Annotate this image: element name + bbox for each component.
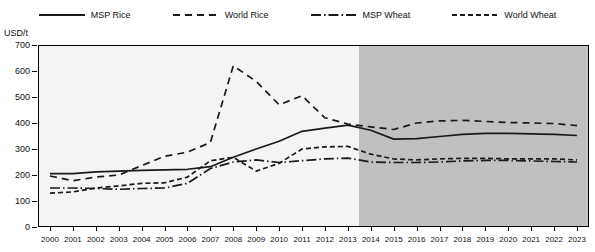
x-tick-label: 2017	[431, 235, 449, 244]
series-line-msp-rice	[50, 125, 577, 174]
x-tick-mark	[485, 227, 486, 231]
legend-swatch-dotted-dash-icon	[452, 10, 498, 20]
x-tick-mark	[577, 227, 578, 231]
y-tick-mark	[32, 227, 37, 228]
legend-swatch-solid-icon	[39, 10, 85, 20]
x-tick-label: 2006	[179, 235, 197, 244]
y-tick-label: 600	[15, 67, 30, 76]
y-tick-mark	[32, 123, 37, 124]
legend-item-world-rice[interactable]: World Rice	[173, 10, 269, 20]
x-tick-label: 2002	[87, 235, 105, 244]
y-axis-title: USD/t	[4, 28, 28, 38]
x-tick-label: 2020	[499, 235, 517, 244]
legend-swatch-dashed-icon	[173, 10, 219, 20]
x-tick-label: 2011	[293, 235, 310, 244]
legend-label: World Rice	[225, 10, 269, 20]
chart-legend: MSP RiceWorld RiceMSP WheatWorld Wheat	[0, 6, 595, 24]
x-tick-label: 2021	[522, 235, 540, 244]
y-tick-mark	[32, 97, 37, 98]
x-tick-mark	[417, 227, 418, 231]
x-tick-mark	[325, 227, 326, 231]
x-tick-label: 2013	[339, 235, 357, 244]
x-tick-mark	[371, 227, 372, 231]
x-tick-label: 2009	[247, 235, 265, 244]
y-tick-label: 300	[15, 145, 30, 154]
x-tick-label: 2005	[156, 235, 174, 244]
x-tick-mark	[462, 227, 463, 231]
series-line-world-wheat	[50, 146, 577, 193]
y-tick-mark	[32, 175, 37, 176]
x-tick-mark	[73, 227, 74, 231]
x-tick-mark	[348, 227, 349, 231]
x-tick-label: 2014	[362, 235, 380, 244]
x-tick-mark	[187, 227, 188, 231]
y-tick-mark	[32, 45, 37, 46]
y-tick-mark	[32, 71, 37, 72]
x-tick-mark	[554, 227, 555, 231]
legend-label: MSP Rice	[91, 10, 131, 20]
x-tick-label: 2022	[545, 235, 563, 244]
x-tick-label: 2018	[454, 235, 472, 244]
x-tick-mark	[233, 227, 234, 231]
y-tick-label: 200	[15, 171, 30, 180]
x-tick-mark	[96, 227, 97, 231]
x-tick-mark	[440, 227, 441, 231]
x-tick-mark	[302, 227, 303, 231]
x-tick-mark	[210, 227, 211, 231]
x-tick-label: 2003	[110, 235, 128, 244]
x-tick-mark	[142, 227, 143, 231]
y-axis-labels: 0100200300400500600700	[0, 45, 36, 227]
y-tick-label: 700	[15, 41, 30, 50]
y-tick-label: 0	[25, 223, 30, 232]
x-tick-label: 2001	[64, 235, 82, 244]
x-tick-mark	[256, 227, 257, 231]
legend-label: World Wheat	[504, 10, 556, 20]
legend-item-world-wheat[interactable]: World Wheat	[452, 10, 556, 20]
legend-item-msp-wheat[interactable]: MSP Wheat	[311, 10, 411, 20]
x-tick-label: 2010	[270, 235, 288, 244]
x-tick-mark	[279, 227, 280, 231]
x-tick-label: 2007	[201, 235, 219, 244]
y-tick-label: 100	[15, 197, 30, 206]
legend-item-msp-rice[interactable]: MSP Rice	[39, 10, 131, 20]
x-tick-label: 2000	[41, 235, 59, 244]
x-tick-label: 2023	[568, 235, 586, 244]
x-tick-label: 2015	[385, 235, 403, 244]
y-tick-label: 400	[15, 119, 30, 128]
y-tick-label: 500	[15, 93, 30, 102]
series-line-world-rice	[50, 66, 577, 181]
x-axis-labels: 2000200120022003200420052006200720082009…	[38, 227, 589, 252]
plot-area	[38, 45, 589, 227]
x-tick-mark	[394, 227, 395, 231]
legend-label: MSP Wheat	[363, 10, 411, 20]
x-tick-label: 2016	[408, 235, 426, 244]
y-tick-mark	[32, 201, 37, 202]
x-tick-mark	[119, 227, 120, 231]
chart-root: MSP RiceWorld RiceMSP WheatWorld Wheat U…	[0, 0, 595, 252]
series-line-msp-wheat	[50, 158, 577, 189]
x-tick-mark	[165, 227, 166, 231]
x-tick-mark	[508, 227, 509, 231]
legend-swatch-dashdot-icon	[311, 10, 357, 20]
x-tick-label: 2008	[224, 235, 242, 244]
x-tick-mark	[531, 227, 532, 231]
y-tick-mark	[32, 149, 37, 150]
x-tick-label: 2004	[133, 235, 151, 244]
x-tick-label: 2012	[316, 235, 334, 244]
x-tick-mark	[50, 227, 51, 231]
series-lines	[38, 45, 589, 227]
x-tick-label: 2019	[476, 235, 494, 244]
